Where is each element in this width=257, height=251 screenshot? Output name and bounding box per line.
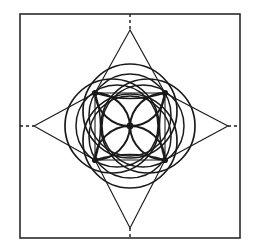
node-top-left (92, 90, 98, 96)
node-bottom-left (92, 157, 98, 163)
node-center (127, 123, 134, 130)
star-rosette-figure (0, 0, 257, 251)
node-top-right (162, 90, 168, 96)
figure-root: Four-pointed star with central circle ro… (0, 0, 257, 251)
node-bottom-right (162, 157, 168, 163)
